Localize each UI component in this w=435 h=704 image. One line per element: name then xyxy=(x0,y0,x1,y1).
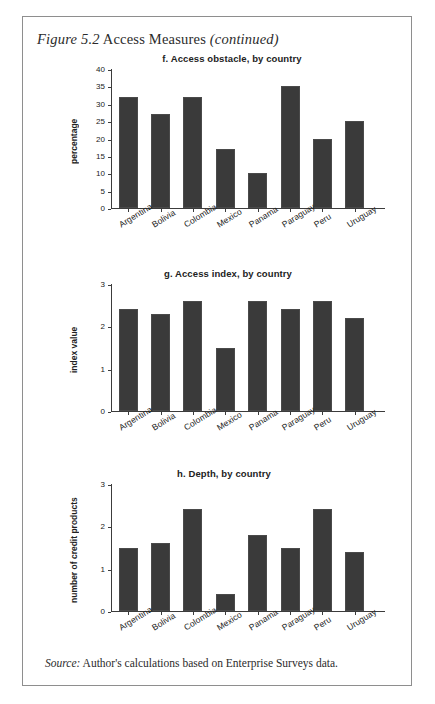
x-tick-label: Mexico xyxy=(215,609,244,632)
bar-slot xyxy=(274,484,306,611)
chart-g-title: g. Access index, by country xyxy=(23,268,423,279)
x-tick-mark xyxy=(290,209,291,213)
x-tick-mark xyxy=(258,612,259,616)
y-tick-label: 2 xyxy=(101,523,111,531)
chart-access-index: g. Access index, by country index value … xyxy=(23,268,413,468)
x-tick-label: Bolivia xyxy=(150,610,177,632)
bar[interactable] xyxy=(216,348,235,412)
chart-f-bars xyxy=(112,69,371,208)
chart-access-obstacle: f. Access obstacle, by country percentag… xyxy=(23,53,413,268)
x-tick-label: Peru xyxy=(312,614,333,632)
bar[interactable] xyxy=(119,309,138,411)
x-tick-mark xyxy=(193,209,194,213)
x-tick-mark xyxy=(128,412,129,416)
figure-frame: Figure 5.2 Access Measures (continued) f… xyxy=(22,16,412,686)
bar-slot xyxy=(306,484,338,611)
bar[interactable] xyxy=(281,309,300,411)
x-tick-mark xyxy=(322,412,323,416)
x-tick-label: Peru xyxy=(312,414,333,432)
bar-slot xyxy=(306,284,338,411)
y-tick-label: 5 xyxy=(101,188,111,196)
bar[interactable] xyxy=(313,139,332,209)
bar[interactable] xyxy=(151,543,170,611)
x-tick-label: Bolivia xyxy=(150,207,177,229)
bar-slot xyxy=(306,69,338,208)
bar-slot xyxy=(144,284,176,411)
figure-title: Figure 5.2 Access Measures (continued) xyxy=(37,31,279,48)
y-tick-label: 0 xyxy=(101,608,111,616)
figure-number: Figure 5.2 xyxy=(37,31,100,47)
chart-g-y-axis-label: index value xyxy=(69,302,79,398)
bar-slot xyxy=(177,69,209,208)
bar[interactable] xyxy=(248,301,267,411)
x-tick-mark xyxy=(322,209,323,213)
bar-slot xyxy=(274,69,306,208)
bar-slot xyxy=(209,69,241,208)
bar[interactable] xyxy=(345,121,364,208)
y-tick-label: 10 xyxy=(96,170,111,178)
bar[interactable] xyxy=(345,552,364,611)
bar[interactable] xyxy=(248,535,267,611)
bar[interactable] xyxy=(248,173,267,208)
chart-g-plot: 0123 xyxy=(111,284,371,412)
bar-slot xyxy=(274,284,306,411)
x-tick-mark xyxy=(225,412,226,416)
y-tick-label: 15 xyxy=(96,153,111,161)
bar-slot xyxy=(242,69,274,208)
y-tick-label: 35 xyxy=(96,83,111,91)
bar[interactable] xyxy=(313,301,332,411)
chart-f-plot: 0510152025303540 xyxy=(111,69,371,209)
source-text: Author's calculations based on Enterpris… xyxy=(83,657,338,669)
bar[interactable] xyxy=(183,97,202,208)
bar-slot xyxy=(242,284,274,411)
bar[interactable] xyxy=(183,301,202,411)
y-tick-label: 1 xyxy=(101,366,111,374)
bar-slot xyxy=(177,284,209,411)
bar[interactable] xyxy=(216,594,235,611)
bar[interactable] xyxy=(119,97,138,208)
x-tick-mark xyxy=(193,612,194,616)
y-tick-label: 3 xyxy=(101,281,111,289)
x-tick-mark xyxy=(225,612,226,616)
chart-h-y-axis-label: number of credit products xyxy=(69,488,79,612)
x-tick-mark xyxy=(128,612,129,616)
x-tick-mark xyxy=(225,209,226,213)
x-tick-mark xyxy=(322,612,323,616)
source-label: Source: xyxy=(45,657,80,669)
source-note: Source: Author's calculations based on E… xyxy=(45,657,338,669)
bar[interactable] xyxy=(216,149,235,208)
figure-continued-marker: (continued) xyxy=(210,31,279,47)
bar[interactable] xyxy=(119,548,138,612)
bar[interactable] xyxy=(281,548,300,612)
bar[interactable] xyxy=(281,86,300,208)
y-tick-label: 20 xyxy=(96,136,111,144)
bar[interactable] xyxy=(151,114,170,208)
x-tick-mark xyxy=(258,209,259,213)
y-tick-label: 0 xyxy=(101,205,111,213)
y-tick-label: 40 xyxy=(96,66,111,74)
x-tick-mark xyxy=(128,209,129,213)
bar-slot xyxy=(339,484,371,611)
bar[interactable] xyxy=(345,318,364,411)
x-tick-mark xyxy=(161,412,162,416)
y-tick-label: 2 xyxy=(101,323,111,331)
x-tick-mark xyxy=(290,612,291,616)
bar[interactable] xyxy=(151,314,170,411)
chart-h-plot: 0123 xyxy=(111,484,371,612)
chart-h-bars xyxy=(112,484,371,611)
bar-slot xyxy=(112,284,144,411)
bar-slot xyxy=(242,484,274,611)
bar[interactable] xyxy=(313,509,332,611)
x-tick-mark xyxy=(290,412,291,416)
bar[interactable] xyxy=(183,509,202,611)
chart-f-y-axis-label: percentage xyxy=(69,91,79,191)
x-tick-mark xyxy=(193,412,194,416)
bar-slot xyxy=(339,69,371,208)
y-tick-label: 30 xyxy=(96,101,111,109)
bar-slot xyxy=(144,69,176,208)
y-tick-label: 0 xyxy=(101,408,111,416)
bar-slot xyxy=(339,284,371,411)
x-tick-mark xyxy=(355,209,356,213)
y-tick-label: 25 xyxy=(96,118,111,126)
x-tick-label: Mexico xyxy=(215,206,244,229)
